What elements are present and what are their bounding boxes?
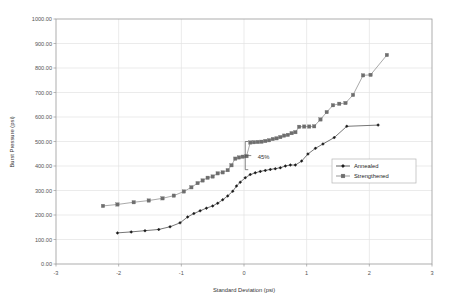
x-tick-label: 0 (242, 270, 245, 276)
data-point-marker (331, 104, 334, 107)
chart-legend[interactable]: AnnealedStrengthened (332, 159, 416, 183)
data-point-marker (182, 190, 185, 193)
y-tick-label: 300.00 (35, 188, 52, 194)
data-point-marker (267, 139, 270, 142)
data-point-marker (221, 171, 224, 174)
chart-container: 0.00100.00200.00300.00400.00500.00600.00… (0, 0, 449, 304)
data-point-marker (234, 157, 237, 160)
data-point-marker (351, 93, 354, 96)
data-point-marker (369, 73, 372, 76)
data-point-marker (279, 135, 282, 138)
y-tick-label: 1000.00 (32, 16, 52, 22)
y-tick-label: 400.00 (35, 163, 52, 169)
data-point-marker (290, 131, 293, 134)
data-point-marker (312, 125, 315, 128)
y-axis-title: Burst Pressure (psi) (9, 116, 15, 167)
x-axis-tick-labels: -3-2-10123 (54, 270, 434, 276)
data-point-marker (338, 102, 341, 105)
data-point-marker (341, 174, 345, 178)
data-point-marker (385, 53, 388, 56)
data-point-marker (319, 118, 322, 121)
data-point-marker (264, 139, 267, 142)
data-point-marker (216, 172, 219, 175)
data-point-marker (297, 125, 300, 128)
data-point-marker (325, 110, 328, 113)
data-point-marker (282, 134, 285, 137)
data-point-marker (101, 204, 104, 207)
y-axis-tick-labels: 0.00100.00200.00300.00400.00500.00600.00… (32, 16, 52, 267)
data-point-marker (147, 199, 150, 202)
x-tick-label: 2 (368, 270, 371, 276)
data-point-marker (344, 101, 347, 104)
data-point-marker (201, 179, 204, 182)
y-tick-label: 0.00 (41, 261, 52, 267)
y-tick-label: 600.00 (35, 114, 52, 120)
data-point-marker (237, 156, 240, 159)
data-point-marker (241, 155, 244, 158)
data-point-marker (307, 125, 310, 128)
x-tick-label: 1 (305, 270, 308, 276)
data-point-marker (294, 130, 297, 133)
y-tick-label: 100.00 (35, 237, 52, 243)
data-point-marker (252, 141, 255, 144)
legend-label: Strengthened (354, 173, 389, 179)
y-tick-label: 800.00 (35, 65, 52, 71)
data-point-marker (302, 125, 305, 128)
x-tick-label: -3 (54, 270, 59, 276)
legend-label: Annealed (354, 163, 379, 169)
y-tick-label: 700.00 (35, 90, 52, 96)
data-point-marker (260, 140, 263, 143)
x-tick-label: -1 (179, 270, 184, 276)
data-point-marker (116, 203, 119, 206)
data-point-marker (286, 133, 289, 136)
data-point-marker (256, 140, 259, 143)
data-point-marker (249, 141, 252, 144)
data-point-marker (226, 168, 229, 171)
y-tick-label: 200.00 (35, 212, 52, 218)
x-tick-label: 3 (430, 270, 433, 276)
data-point-marker (271, 137, 274, 140)
data-point-marker (190, 186, 193, 189)
y-tick-label: 500.00 (35, 139, 52, 145)
data-point-marker (161, 197, 164, 200)
data-point-marker (275, 137, 278, 140)
x-tick-label: -2 (116, 270, 121, 276)
data-point-marker (211, 175, 214, 178)
data-point-marker (206, 176, 209, 179)
data-point-marker (132, 201, 135, 204)
y-tick-label: 900.00 (35, 41, 52, 47)
data-point-marker (361, 74, 364, 77)
data-point-marker (196, 181, 199, 184)
x-axis-title: Standard Deviation (psi) (213, 287, 275, 293)
annotation-label-45-percent: 45% (258, 154, 270, 160)
data-point-marker (230, 164, 233, 167)
burst-pressure-chart: 0.00100.00200.00300.00400.00500.00600.00… (0, 0, 449, 304)
data-point-marker (172, 194, 175, 197)
